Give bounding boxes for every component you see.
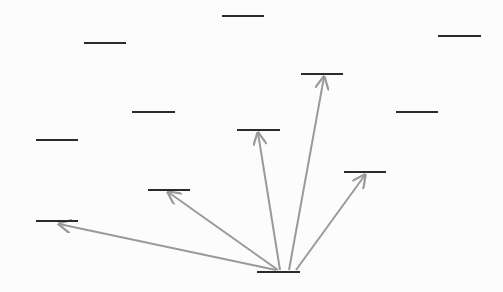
arrow-source-to-m11 [59,224,276,270]
arrows-group [59,77,365,270]
arrow-source-to-m4 [289,77,324,270]
arrow-source-to-m8 [258,133,280,270]
arrow-source-to-m10 [296,175,365,270]
diagram-svg [0,0,503,292]
diagram-canvas [0,0,503,292]
